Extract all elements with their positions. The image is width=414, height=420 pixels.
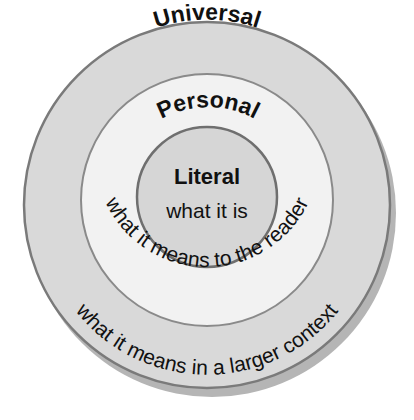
concentric-meaning-diagram: Universal what it means in a larger cont… xyxy=(0,0,414,420)
literal-description: what it is xyxy=(165,199,248,222)
literal-title: Literal xyxy=(174,164,240,189)
